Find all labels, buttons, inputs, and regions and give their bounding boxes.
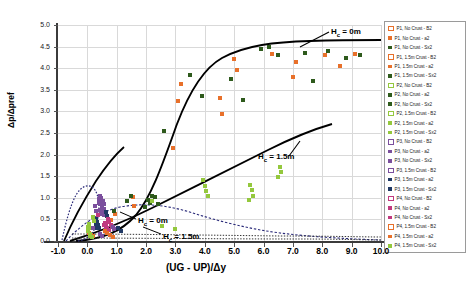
data-point [294,60,298,64]
x-tick-label: 7.0 [278,246,308,256]
y-tick-label: 0.5 [28,215,50,223]
gridline-horizontal [58,68,381,69]
y-tick-label: 2.0 [28,151,50,159]
legend-item-label: P1, 1.5m Crust - Sx2 [395,73,437,78]
x-tick-mark [322,243,323,247]
y-tick-label: 2.5 [28,129,50,137]
y-tick-label: 3.5 [28,86,50,94]
data-point [143,205,147,209]
data-point [338,64,342,68]
legend-swatch-icon [388,121,392,125]
x-tick-mark [234,243,235,247]
x-tick-label: 8.0 [307,246,337,256]
y-axis-title: Δp/Δpref [6,75,16,145]
legend-item: P3, 1.5m Crust - Sx2 [387,184,463,193]
data-point [93,204,97,208]
legend-swatch-icon [388,178,392,182]
x-tick-label: 10.0 [366,246,396,256]
data-point [344,56,348,60]
gridline-vertical [175,25,176,241]
legend-swatch-icon [388,150,392,154]
annotation-hc-0m-upper: Hc = 0m [331,27,361,38]
legend-swatch-icon [388,187,392,191]
x-tick-label: 1.0 [102,246,132,256]
data-point [358,53,362,57]
data-point [171,146,175,150]
legend-swatch-icon [388,54,394,60]
legend-item: P3, No Crust - Sx2 [387,156,463,165]
legend-item: P4, 1.5m Crust - Sx2 [387,241,463,250]
legend-item-label: P2, No Crust - B2 [397,83,432,88]
data-point [176,99,180,103]
legend-item: P2, 1.5m Crust - Sx2 [387,128,463,137]
gridline-vertical [381,25,382,241]
legend-swatch-icon [388,168,394,174]
data-point [278,165,282,169]
data-point [276,175,280,179]
legend-item-label: P2, 1.5m Crust - B2 [397,111,436,116]
legend-item-label: P4, No Crust - Sx2 [395,215,432,220]
x-tick-mark [381,243,382,247]
legend-item-label: P3, No Crust - Sx2 [395,158,432,163]
data-point [88,234,92,238]
legend-item: P3, 1.5m Crust - a2 [387,175,463,184]
legend-item: P3, No Crust - B2 [387,137,463,146]
y-tick-mark [54,219,58,220]
x-tick-mark [146,243,147,247]
y-tick-mark [54,111,58,112]
y-tick-label: 4.5 [28,43,50,51]
x-tick-label: 0.0 [72,246,102,256]
y-tick-mark [54,25,58,26]
gridline-vertical [264,25,265,241]
y-tick-label: 5.0 [28,21,50,29]
legend-item-label: P4, 1.5m Crust - B2 [397,224,436,229]
legend-item-label: P3, No Crust - a2 [395,149,430,154]
data-point [112,209,116,213]
data-point [353,52,357,56]
legend-swatch-icon [388,65,392,69]
legend-item: P3, 1.5m Crust - B2 [387,166,463,175]
y-tick-mark [54,90,58,91]
data-point [235,68,239,72]
x-tick-mark [293,243,294,247]
data-point [203,184,207,188]
legend-item-label: P4, No Crust - B2 [397,196,432,201]
legend-item: P1, No Crust - Sx2 [387,43,463,52]
legend-swatch-icon [388,216,392,220]
legend-item: P2, 1.5m Crust - a2 [387,118,463,127]
data-point [279,170,283,174]
legend-item: P1, 1.5m Crust - B2 [387,52,463,61]
chart-figure: (UG - UP)/Δy Δp/Δpref P1, No Crust - B2P… [0,0,467,295]
y-tick-mark [54,176,58,177]
x-tick-label: 6.0 [249,246,279,256]
legend-item-label: P4, 1.5m Crust - Sx2 [395,243,437,248]
legend-item: P2, No Crust - a2 [387,90,463,99]
gridline-horizontal [58,155,381,156]
x-tick-mark [205,243,206,247]
legend-item: P4, 1.5m Crust - a2 [387,232,463,241]
gridline-horizontal [58,198,381,199]
data-point [259,47,263,51]
legend-swatch-icon [388,36,392,40]
gridline-vertical [205,25,206,241]
data-point [267,45,271,49]
x-tick-label: 9.0 [337,246,367,256]
data-point [150,199,154,203]
x-tick-mark [87,243,88,247]
legend-item: P4, No Crust - B2 [387,194,463,203]
data-point [218,96,222,100]
legend-swatch-icon [388,235,392,239]
gridline-horizontal [58,133,381,134]
data-point [132,204,136,208]
legend-item-label: P1, 1.5m Crust - a2 [395,64,434,69]
data-point [96,213,100,217]
data-point [200,94,204,98]
data-point [111,235,115,239]
legend-item-label: P1, 1.5m Crust - B2 [397,55,436,60]
data-point [220,112,224,116]
legend-item: P4, No Crust - Sx2 [387,213,463,222]
data-point [201,178,205,182]
y-tick-mark [54,198,58,199]
legend-item-label: P1, No Crust - Sx2 [395,45,432,50]
legend-item: P2, No Crust - Sx2 [387,100,463,109]
